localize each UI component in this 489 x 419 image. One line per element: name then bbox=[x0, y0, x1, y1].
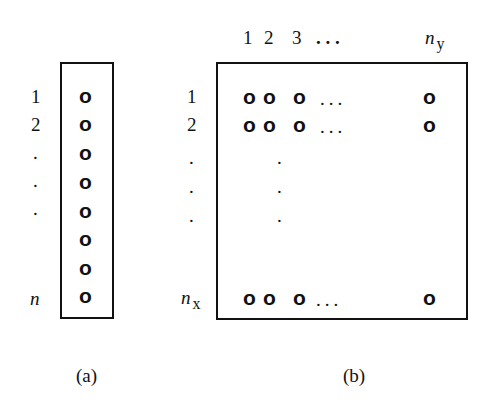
panel-b-row-ellipsis: ... bbox=[320, 117, 346, 136]
panel-b-col-label: 1 bbox=[243, 28, 253, 47]
panel-a-row-label: 2 bbox=[31, 115, 41, 134]
panel-b-col-label-ny: ny bbox=[425, 28, 445, 48]
panel-b-row-ellipsis: ... bbox=[320, 89, 346, 108]
panel-b-vert-dot: . bbox=[277, 148, 282, 167]
panel-b-cell: o bbox=[423, 86, 436, 107]
panel-b-row-label: . bbox=[189, 177, 194, 196]
panel-b-cell: o bbox=[423, 114, 436, 135]
panel-b-cell: o bbox=[263, 86, 276, 107]
panel-b-row-label-nx: nx bbox=[181, 288, 201, 308]
x-subscript: x bbox=[193, 295, 201, 312]
panel-a-cell: o bbox=[79, 285, 92, 306]
panel-b-vert-dot: . bbox=[277, 177, 282, 196]
n-symbol: n bbox=[425, 27, 435, 48]
y-subscript: y bbox=[437, 35, 445, 52]
panel-b-row-label: . bbox=[189, 148, 194, 167]
n-symbol: n bbox=[181, 287, 191, 308]
panel-a-caption: (a) bbox=[76, 365, 97, 387]
panel-a-cell: o bbox=[79, 228, 92, 249]
panel-a-cell: o bbox=[79, 142, 92, 163]
panel-a-row-label: . bbox=[33, 199, 38, 218]
panel-b-cell: o bbox=[293, 86, 306, 107]
panel-b-cell: o bbox=[293, 114, 306, 135]
panel-b-row-ellipsis: ... bbox=[316, 290, 342, 309]
panel-b-row-label: . bbox=[189, 206, 194, 225]
panel-b-cell: o bbox=[243, 86, 256, 107]
panel-a-cell: o bbox=[79, 113, 92, 134]
panel-b-cell: o bbox=[243, 114, 256, 135]
panel-a-row-label: . bbox=[33, 143, 38, 162]
panel-b-cell: o bbox=[423, 287, 436, 308]
panel-b-row-label: 1 bbox=[187, 87, 197, 106]
panel-b-cell: o bbox=[263, 114, 276, 135]
panel-b-row-label: 2 bbox=[187, 115, 197, 134]
panel-a-cell: o bbox=[79, 257, 92, 278]
panel-b-cell: o bbox=[263, 287, 276, 308]
panel-b-col-label: 3 bbox=[292, 28, 302, 47]
panel-b-cell: o bbox=[243, 287, 256, 308]
panel-b-col-label: 2 bbox=[264, 28, 274, 47]
panel-b-caption: (b) bbox=[343, 365, 365, 387]
panel-a-cell: o bbox=[79, 85, 92, 106]
panel-b-vert-dot: . bbox=[277, 206, 282, 225]
panel-a-row-label: 1 bbox=[31, 87, 41, 106]
panel-a-cell: o bbox=[79, 200, 92, 221]
panel-b-col-ellipsis: . . . bbox=[316, 28, 340, 47]
panel-a-row-label-n: n bbox=[30, 289, 40, 308]
panel-b-cell: o bbox=[293, 287, 306, 308]
panel-a-cell: o bbox=[79, 171, 92, 192]
panel-a-row-label: . bbox=[33, 171, 38, 190]
